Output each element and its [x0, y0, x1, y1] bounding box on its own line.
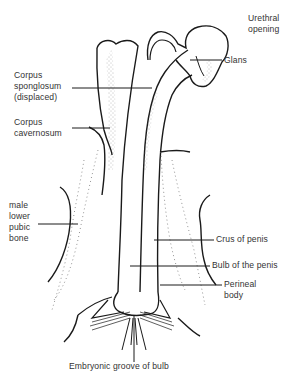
label-bulb-of-penis: Bulb of the penis: [212, 260, 278, 271]
label-pubic-bone: male lower pubic bone: [9, 200, 30, 244]
bulb-shape: [92, 292, 170, 318]
leader-lines: [38, 60, 222, 362]
left-pubic-bone-outline: [48, 127, 112, 342]
label-crus-of-penis: Crus of penis: [216, 234, 268, 245]
label-perineal-body: Perineal body: [224, 279, 256, 301]
corpus-spongiosum-shape: [140, 50, 192, 292]
label-embryonic-groove: Embryonic groove of bulb: [69, 361, 169, 372]
label-corpus-spongiosum: Corpus sponglosum (displaced): [14, 70, 61, 103]
corpus-cavernosum-shape: [97, 41, 138, 293]
anatomy-diagram: Urethral opening Glans Corpus sponglosum…: [0, 0, 306, 377]
penis-anatomy-drawing: [0, 0, 306, 377]
label-urethral-opening: Urethral opening: [248, 13, 279, 35]
right-pubic-bone-outline: [160, 151, 216, 337]
label-corpus-cavernosum: Corpus cavernosum: [14, 117, 62, 139]
label-glans: Glans: [224, 55, 247, 66]
